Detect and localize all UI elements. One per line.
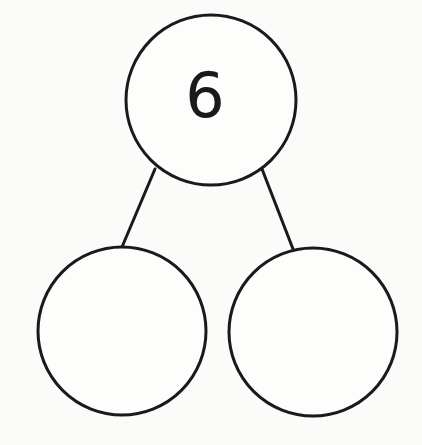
whole-value: 6 (185, 59, 224, 132)
number-bond-diagram: 6 (0, 0, 422, 445)
connector-right (262, 169, 293, 249)
part-circle-left[interactable] (38, 247, 206, 415)
connector-left (122, 169, 155, 247)
part-circle-right[interactable] (229, 248, 397, 416)
